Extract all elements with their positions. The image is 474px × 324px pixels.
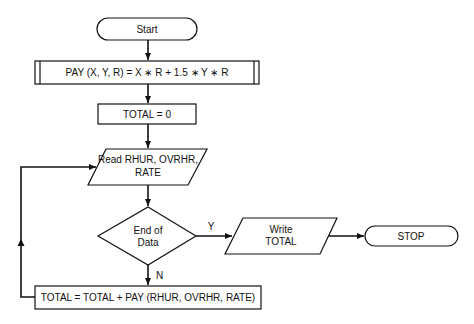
flowchart-canvas: Start PAY (X, Y, R) = X ∗ R + 1.5 ∗ Y ∗ … <box>0 0 474 324</box>
no-label: N <box>156 270 163 281</box>
accumulate-label: TOTAL = TOTAL + PAY (RHUR, OVRHR, RATE) <box>41 292 255 303</box>
decision-label-line1: End of <box>134 225 163 236</box>
start-terminal: Start <box>97 18 197 40</box>
write-label-line1: Write <box>269 224 293 235</box>
read-input-label-line2: RATE <box>135 167 161 178</box>
read-input-label-line1: Read RHUR, OVRHR, <box>98 154 198 165</box>
loop-up-arrowhead <box>18 239 25 246</box>
end-of-data-decision: End of Data <box>98 207 196 265</box>
write-label-line2: TOTAL <box>265 236 297 247</box>
stop-terminal: STOP <box>365 226 458 246</box>
pay-function-box: PAY (X, Y, R) = X ∗ R + 1.5 ∗ Y ∗ R <box>35 61 259 84</box>
yes-label: Y <box>208 221 215 232</box>
read-input-box: Read RHUR, OVRHR, RATE <box>88 149 207 185</box>
accumulate-total-box: TOTAL = TOTAL + PAY (RHUR, OVRHR, RATE) <box>35 286 261 309</box>
pay-function-label: PAY (X, Y, R) = X ∗ R + 1.5 ∗ Y ∗ R <box>66 67 229 78</box>
decision-label-line2: Data <box>137 237 159 248</box>
init-total-label: TOTAL = 0 <box>123 109 171 120</box>
start-label: Start <box>136 24 157 35</box>
loop-back-connector <box>21 167 96 297</box>
write-total-box: Write TOTAL <box>225 218 337 254</box>
init-total-box: TOTAL = 0 <box>98 104 196 124</box>
stop-label: STOP <box>397 231 424 242</box>
